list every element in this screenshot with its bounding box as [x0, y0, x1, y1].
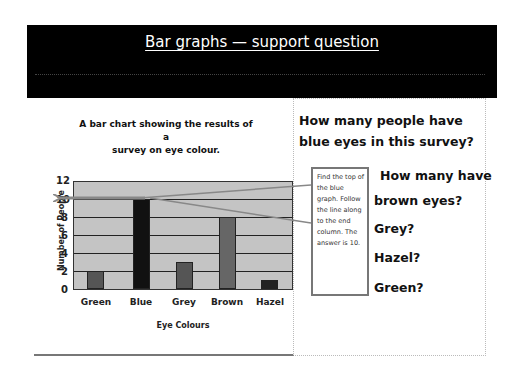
gridline-8 [74, 217, 292, 218]
gridline-6 [74, 235, 292, 236]
y-tick-6: 6 [56, 230, 68, 241]
y-tick-0: 0 [56, 284, 68, 295]
chart-title-line1: A bar chart showing the results of a [76, 118, 256, 144]
y-tick-10: 10 [56, 194, 68, 205]
bar-blue [133, 199, 150, 289]
plot-area [73, 181, 293, 290]
chart-title: A bar chart showing the results of a sur… [76, 118, 256, 157]
y-tick-2: 2 [56, 266, 68, 277]
question-green: Green? [374, 277, 424, 298]
y-tick-4: 4 [56, 248, 68, 259]
header-divider [35, 74, 485, 75]
y-tick-8: 8 [56, 212, 68, 223]
bar-chart: A bar chart showing the results of a sur… [34, 98, 294, 356]
gridline-4 [74, 253, 292, 254]
x-tick-grey: Grey [164, 297, 204, 307]
question-hazel: Hazel? [374, 247, 420, 268]
question-grey: Grey? [374, 218, 414, 239]
slide-header: Bar graphs — support question [27, 25, 497, 98]
x-tick-green: Green [76, 297, 116, 307]
bar-grey [176, 262, 193, 289]
gridline-10 [74, 199, 292, 200]
chart-title-line2: survey on eye colour. [76, 144, 256, 157]
bar-brown [219, 217, 236, 289]
question-brown-line2: brown eyes? [374, 190, 462, 211]
slide-title: Bar graphs — support question [27, 33, 497, 51]
x-tick-hazel: Hazel [250, 297, 290, 307]
bar-hazel [261, 280, 278, 289]
bar-green [87, 271, 104, 289]
question-blue: How many people have blue eyes in this s… [299, 110, 489, 152]
x-axis-label: Eye Colours [73, 321, 293, 330]
question-brown-line1: How many have [380, 165, 492, 186]
x-tick-brown: Brown [207, 297, 247, 307]
x-tick-blue: Blue [121, 297, 161, 307]
hint-callout: Find the top of the blue graph. Follow t… [311, 167, 369, 296]
y-tick-12: 12 [56, 175, 68, 186]
